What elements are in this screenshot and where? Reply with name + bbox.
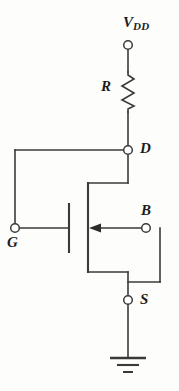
terminal-node-source[interactable] xyxy=(124,296,133,305)
circuit-schematic-svg xyxy=(0,0,179,391)
terminal-node-body[interactable] xyxy=(142,224,151,233)
terminal-node-gate[interactable] xyxy=(11,224,20,233)
label-drain: D xyxy=(140,141,151,156)
label-source: S xyxy=(140,292,148,307)
resistor-symbol xyxy=(122,72,134,112)
terminal-node-vdd[interactable] xyxy=(124,41,133,50)
label-resistor: R xyxy=(101,79,111,94)
label-supply-voltage-main: V xyxy=(123,14,133,30)
label-supply-voltage-subscript: DD xyxy=(133,20,149,32)
terminal-node-drain[interactable] xyxy=(124,146,133,155)
body-arrow-head-icon xyxy=(89,224,101,233)
label-supply-voltage: VDD xyxy=(123,15,149,32)
mosfet-circuit-figure: VDD R D B G S xyxy=(0,0,179,391)
label-gate: G xyxy=(7,235,18,250)
label-body: B xyxy=(141,203,151,218)
